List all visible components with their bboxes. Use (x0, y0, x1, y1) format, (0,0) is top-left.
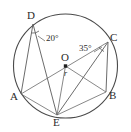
chord-C-B (106, 42, 108, 92)
geometry-canvas (0, 0, 131, 132)
segment-A-E (21, 94, 57, 115)
angle-label-at-C: 35° (79, 44, 92, 53)
vertex-label-B: B (109, 90, 116, 101)
center-point-marker (64, 64, 67, 67)
angle-label-at-D: 20° (46, 34, 59, 43)
segment-O-B (66, 66, 107, 92)
vertex-label-A: A (10, 91, 18, 102)
radius-label: r (64, 70, 67, 78)
vertex-label-D: D (27, 10, 35, 21)
vertex-label-E: E (53, 117, 60, 128)
segment-A-O-C (21, 42, 108, 94)
vertex-label-C: C (110, 32, 117, 43)
vertex-label-O: O (61, 52, 69, 63)
leader-line-angle-D (38, 36, 45, 41)
geometry-figure: D C A B E O r 20° 35° (0, 0, 131, 132)
segment-E-B (57, 92, 106, 115)
chord-D-A (21, 24, 33, 94)
